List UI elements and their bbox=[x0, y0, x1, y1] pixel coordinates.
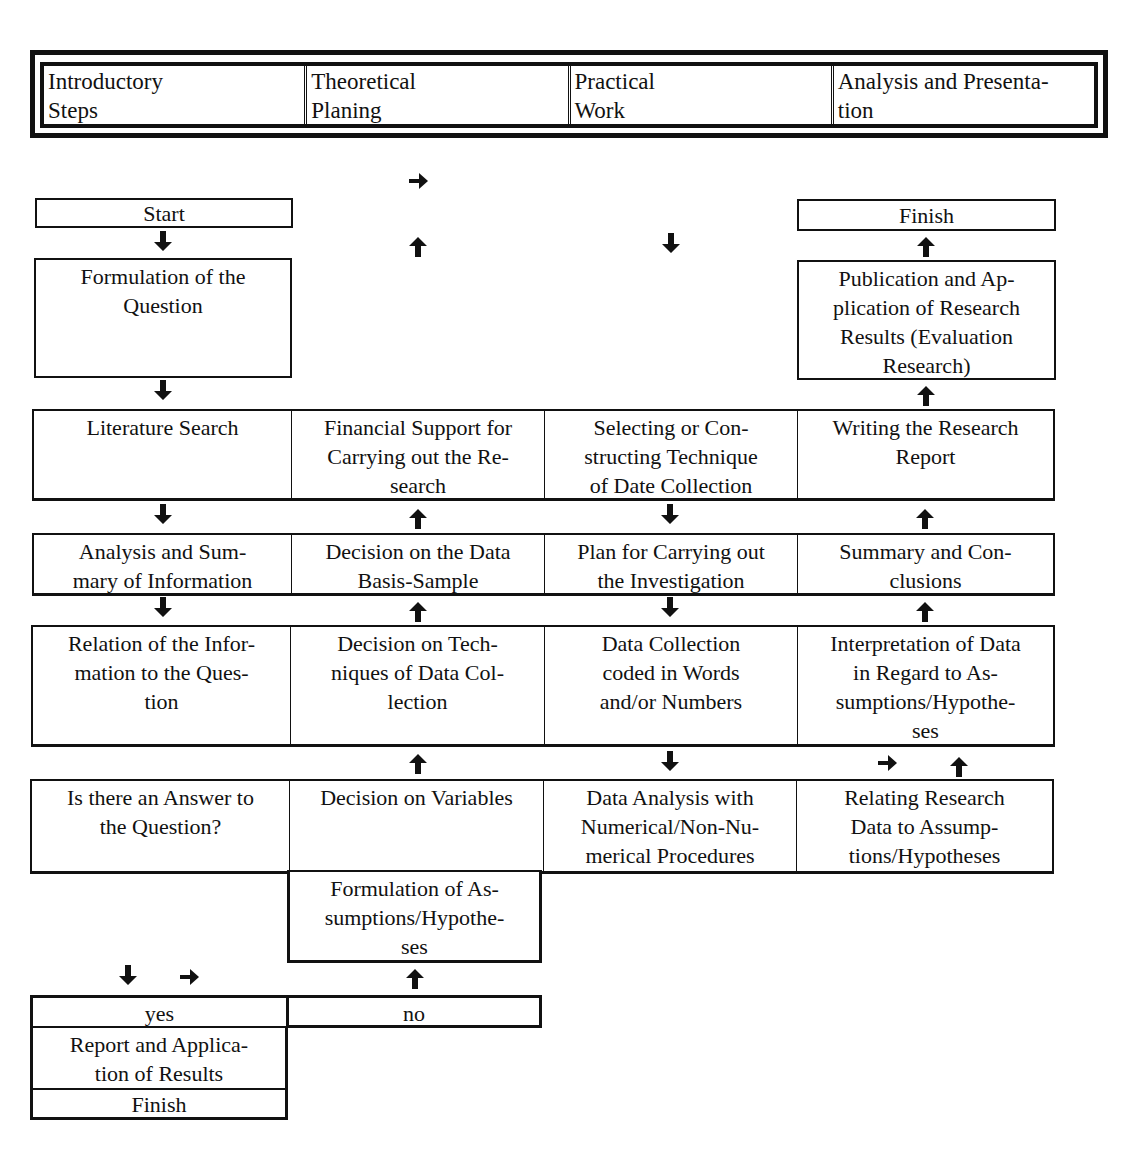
yes-box: yes bbox=[30, 995, 288, 1028]
arrow-down-icon bbox=[659, 750, 681, 772]
arrow-down-icon bbox=[152, 379, 174, 401]
writing-report-box: Writing the Research Report bbox=[798, 411, 1053, 498]
arrow-down-icon bbox=[152, 596, 174, 618]
arrow-up-icon bbox=[914, 508, 936, 530]
arrow-right-icon bbox=[407, 170, 429, 192]
phase-practical-work: Practical Work bbox=[571, 66, 834, 124]
selecting-technique-box: Selecting or Con- structing Technique of… bbox=[545, 411, 798, 498]
flow-row-4: Is there an Answer to the Question? Deci… bbox=[30, 779, 1054, 874]
flow-row-3: Relation of the Infor- mation to the Que… bbox=[31, 625, 1055, 747]
arrow-up-icon bbox=[407, 601, 429, 623]
flow-row-1: Literature Search Financial Support for … bbox=[32, 409, 1055, 501]
relating-research-data-box: Relating Research Data to Assump- tions/… bbox=[797, 781, 1052, 871]
start-box: Start bbox=[35, 198, 293, 228]
report-application-box: Report and Applica- tion of Results bbox=[30, 1027, 288, 1089]
summary-conclusions-box: Summary and Con- clusions bbox=[798, 535, 1053, 593]
decision-techniques-box: Decision on Tech- niques of Data Col- le… bbox=[291, 627, 545, 744]
phase-theoretical-planing: Theoretical Planing bbox=[307, 66, 570, 124]
publication-box: Publication and Ap- plication of Researc… bbox=[797, 260, 1056, 380]
data-collection-box: Data Collection coded in Words and/or Nu… bbox=[545, 627, 798, 744]
flow-row-2: Analysis and Sum- mary of Information De… bbox=[32, 533, 1055, 596]
arrow-up-icon bbox=[948, 756, 970, 778]
formulation-question-box: Formulation of the Question bbox=[34, 258, 292, 378]
decision-variables-box: Decision on Variables bbox=[290, 781, 544, 871]
arrow-up-icon bbox=[914, 601, 936, 623]
arrow-down-icon bbox=[152, 503, 174, 525]
phase-header: Introductory Steps Theoretical Planing P… bbox=[40, 62, 1098, 128]
plan-investigation-box: Plan for Carrying out the Investigation bbox=[545, 535, 798, 593]
relation-information-box: Relation of the Infor- mation to the Que… bbox=[33, 627, 291, 744]
finish-bottom-box: Finish bbox=[30, 1088, 288, 1120]
no-box: no bbox=[287, 995, 542, 1028]
arrow-down-icon bbox=[659, 503, 681, 525]
arrow-up-icon bbox=[915, 236, 937, 258]
arrow-down-icon bbox=[659, 596, 681, 618]
decision-data-basis-box: Decision on the Data Basis-Sample bbox=[292, 535, 545, 593]
arrow-up-icon bbox=[407, 236, 429, 258]
arrow-up-icon bbox=[407, 753, 429, 775]
phase-analysis-presentation: Analysis and Presenta- tion bbox=[834, 66, 1094, 124]
answer-question-box: Is there an Answer to the Question? bbox=[32, 781, 290, 871]
arrow-right-icon bbox=[876, 752, 898, 774]
arrow-up-icon bbox=[404, 968, 426, 990]
arrow-down-icon bbox=[152, 230, 174, 252]
arrow-down-icon bbox=[117, 964, 139, 986]
formulation-assumptions-box: Formulation of As- sumptions/Hypothe- se… bbox=[287, 870, 542, 963]
data-analysis-box: Data Analysis with Numerical/Non-Nu- mer… bbox=[544, 781, 797, 871]
arrow-right-icon bbox=[178, 966, 200, 988]
finish-top-box: Finish bbox=[797, 199, 1056, 231]
analysis-summary-box: Analysis and Sum- mary of Information bbox=[34, 535, 292, 593]
arrow-down-icon bbox=[660, 232, 682, 254]
arrow-up-icon bbox=[915, 385, 937, 407]
phase-header-frame: Introductory Steps Theoretical Planing P… bbox=[30, 50, 1108, 138]
arrow-up-icon bbox=[407, 508, 429, 530]
financial-support-box: Financial Support for Carrying out the R… bbox=[292, 411, 545, 498]
phase-introductory-steps: Introductory Steps bbox=[44, 66, 307, 124]
interpretation-data-box: Interpretation of Data in Regard to As- … bbox=[798, 627, 1053, 744]
literature-search-box: Literature Search bbox=[34, 411, 292, 498]
